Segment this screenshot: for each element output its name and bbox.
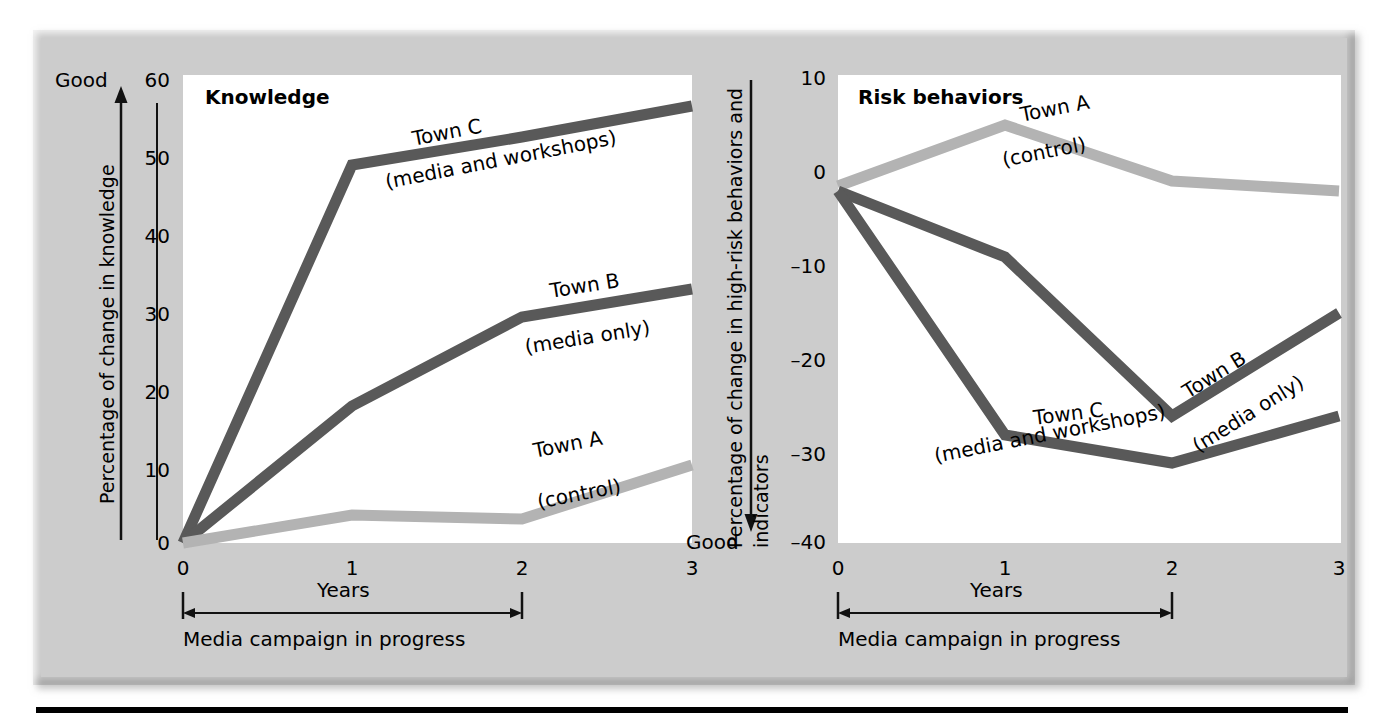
risk-campaign-label: Media campaign in progress [838,627,1120,651]
risk-campaign-bracket [838,592,1172,619]
figure-root: Knowledge 60 50 40 30 20 10 0 Good Perce… [0,0,1384,725]
risk-bracket-svg [0,0,1384,725]
bottom-divider-rule [36,707,1348,713]
